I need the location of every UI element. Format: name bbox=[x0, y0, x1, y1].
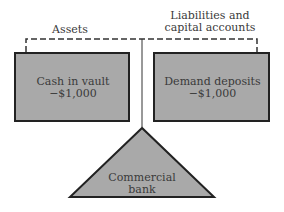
cash-in-vault-value: −$1,000 bbox=[15, 88, 131, 100]
fulcrum-text: Commercial bank bbox=[102, 172, 182, 196]
assets-label: Assets bbox=[40, 24, 100, 36]
bank-label: bank bbox=[102, 184, 182, 196]
liabilities-label: Liabilities and capital accounts bbox=[160, 10, 260, 34]
liabilities-box-text: Demand deposits −$1,000 bbox=[154, 76, 271, 100]
assets-box-text: Cash in vault −$1,000 bbox=[15, 76, 131, 100]
demand-deposits-value: −$1,000 bbox=[154, 88, 271, 100]
liabilities-label-line2: capital accounts bbox=[160, 22, 260, 34]
